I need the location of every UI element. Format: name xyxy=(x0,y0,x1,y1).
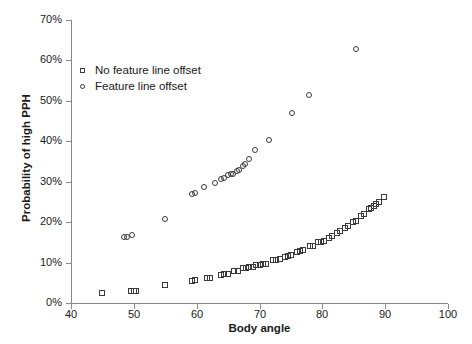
x-tick-label: 90 xyxy=(365,309,405,320)
legend-item-no-feature-line-offset: No feature line offset xyxy=(80,62,201,78)
scatter-chart: 0%10%20%30%40%50%60%70% 405060708090100 … xyxy=(0,0,472,344)
data-point-circle xyxy=(242,161,248,167)
legend: No feature line offset Feature line offs… xyxy=(80,62,201,94)
x-tick-label: 50 xyxy=(114,309,154,320)
x-tick-label: 40 xyxy=(51,309,91,320)
data-point-circle xyxy=(201,184,207,190)
data-point-square xyxy=(133,288,139,294)
y-tick-label: 10% xyxy=(18,257,62,268)
data-point-circle xyxy=(353,46,359,52)
square-marker-icon xyxy=(80,68,92,73)
data-point-square xyxy=(381,194,387,200)
data-point-square xyxy=(263,261,269,267)
data-point-circle xyxy=(266,137,272,143)
data-point-square xyxy=(162,282,168,288)
x-axis-title: Body angle xyxy=(71,322,448,334)
data-point-square xyxy=(288,252,294,258)
circle-marker-icon xyxy=(80,84,92,89)
data-point-circle xyxy=(289,110,295,116)
y-tick-label: 60% xyxy=(18,54,62,65)
legend-label: No feature line offset xyxy=(95,64,201,76)
data-point-square xyxy=(225,271,231,277)
data-point-circle xyxy=(252,147,258,153)
legend-item-feature-line-offset: Feature line offset xyxy=(80,78,201,94)
data-point-circle xyxy=(192,190,198,196)
data-point-circle xyxy=(212,180,218,186)
data-point-square xyxy=(300,247,306,253)
data-point-square xyxy=(99,290,105,296)
data-point-circle xyxy=(162,216,168,222)
x-tick-label: 60 xyxy=(177,309,217,320)
data-point-square xyxy=(192,277,198,283)
legend-label: Feature line offset xyxy=(95,80,187,92)
y-tick-label: 70% xyxy=(18,14,62,25)
data-point-circle xyxy=(246,156,252,162)
x-tick-label: 100 xyxy=(428,309,468,320)
data-point-square xyxy=(207,275,213,281)
data-point-circle xyxy=(129,232,135,238)
data-point-circle xyxy=(306,92,312,98)
y-tick-label: 0% xyxy=(18,297,62,308)
x-tick-label: 80 xyxy=(302,309,342,320)
y-axis-title: Probability of high PPH xyxy=(20,68,32,248)
x-tick-label: 70 xyxy=(240,309,280,320)
